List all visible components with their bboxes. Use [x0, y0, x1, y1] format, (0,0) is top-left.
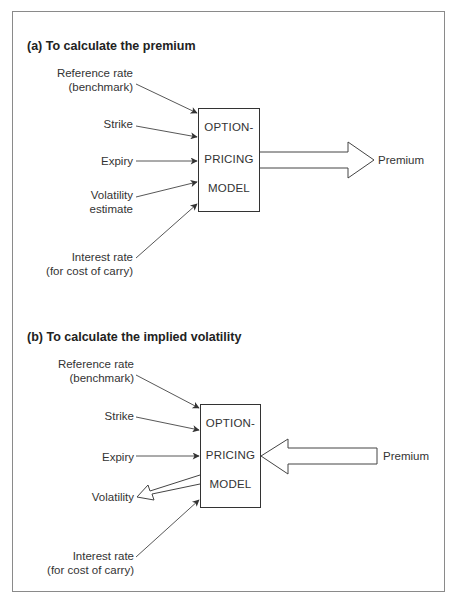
section-b-output-volatility: Volatility: [92, 490, 134, 504]
section-b-input-expiry: Expiry: [102, 450, 134, 464]
section-a-title: (a) To calculate the premium: [27, 39, 196, 53]
section-b-input-reference: Reference rate (benchmark): [58, 357, 134, 385]
section-a-input-reference: Reference rate (benchmark): [57, 66, 133, 94]
section-a-input-interest: Interest rate (for cost of carry): [46, 250, 133, 278]
section-a-output-premium: Premium: [378, 153, 424, 167]
section-b-input-premium: Premium: [383, 449, 429, 463]
section-b-input-interest: Interest rate (for cost of carry): [47, 549, 134, 577]
section-a-input-volatility: Volatility estimate: [90, 188, 133, 216]
section-b-model-box: OPTION- PRICING MODEL: [200, 404, 261, 508]
section-a-model-box: OPTION- PRICING MODEL: [198, 108, 260, 212]
model-line-2: PRICING: [199, 153, 259, 165]
section-b-input-strike: Strike: [105, 409, 134, 423]
section-a-input-expiry: Expiry: [101, 154, 133, 168]
section-a-input-strike: Strike: [104, 117, 133, 131]
model-line-1: OPTION-: [201, 417, 260, 429]
section-b-title: (b) To calculate the implied volatility: [27, 330, 241, 344]
model-line-2: PRICING: [201, 449, 260, 461]
model-line-1: OPTION-: [199, 121, 259, 133]
model-line-3: MODEL: [199, 182, 259, 194]
model-line-3: MODEL: [201, 478, 260, 490]
